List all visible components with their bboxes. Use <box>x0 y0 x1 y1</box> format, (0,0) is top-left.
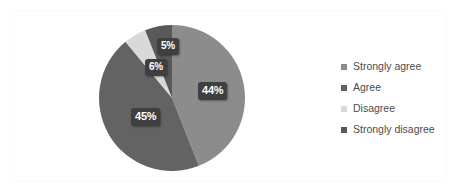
legend-item-label: Disagree <box>353 103 395 114</box>
legend-item-label: Strongly disagree <box>353 124 435 135</box>
square-marker-icon <box>341 106 347 112</box>
legend-item-label: Agree <box>353 82 381 93</box>
legend-item-strongly-agree[interactable]: Strongly agree <box>341 56 451 77</box>
legend-item-strongly-disagree[interactable]: Strongly disagree <box>341 119 451 140</box>
legend-item-label: Strongly agree <box>353 61 421 72</box>
square-marker-icon <box>341 64 347 70</box>
data-label-disagree: 5% <box>157 38 179 55</box>
pie-chart-screenshot: 44% 45% 6% 5% Strongly agree Agree Disag… <box>0 0 458 194</box>
legend-item-agree[interactable]: Agree <box>341 77 451 98</box>
square-marker-icon <box>341 85 347 91</box>
square-marker-icon <box>341 127 347 133</box>
data-label-strongly-disagree: 6% <box>145 59 167 76</box>
data-label-strongly-agree: 44% <box>198 82 227 100</box>
legend-item-disagree[interactable]: Disagree <box>341 98 451 119</box>
chart-legend: Strongly agree Agree Disagree Strongly d… <box>341 56 451 140</box>
data-label-agree: 45% <box>131 108 160 126</box>
